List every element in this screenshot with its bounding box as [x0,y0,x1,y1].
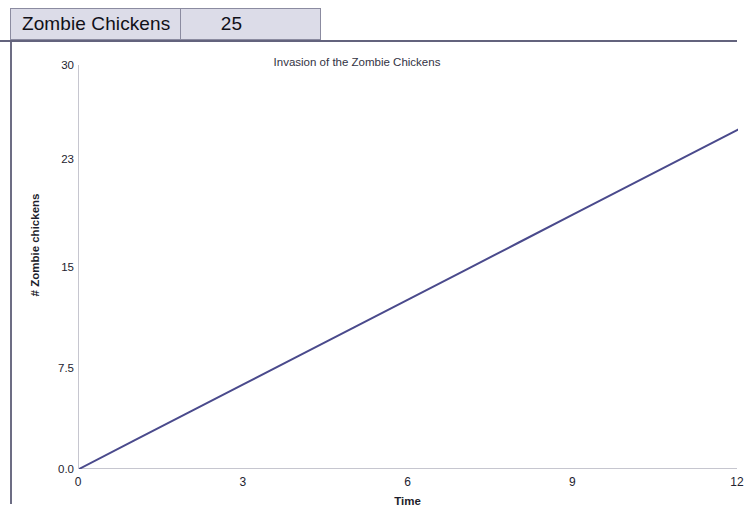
line-chart: Invasion of the Zombie Chickens # Zombie… [12,43,737,504]
plot-area [78,65,737,469]
header-cell-value[interactable]: 25 [181,9,320,39]
x-tick-label: 6 [404,475,411,489]
y-tick-label: 30 [14,59,74,71]
y-tick-label: 15 [14,261,74,273]
y-tick-label: 23 [14,153,74,165]
header-name-label: Zombie Chickens [22,13,170,35]
x-axis-ticks: 036912 [78,475,737,493]
y-axis-ticks: 0.07.5152330 [12,65,74,469]
header-value-label: 25 [221,13,242,35]
sheet-horizontal-rule [0,40,737,42]
data-series-line [79,130,738,469]
x-tick-label: 3 [239,475,246,489]
y-tick-label: 0.0 [14,463,74,475]
header-table: Zombie Chickens 25 [10,8,321,40]
x-axis-label: Time [78,495,737,507]
y-tick-label: 7.5 [14,362,74,374]
x-tick-label: 12 [730,475,743,489]
header-cell-name[interactable]: Zombie Chickens [11,9,181,39]
x-tick-label: 0 [75,475,82,489]
x-tick-label: 9 [569,475,576,489]
plot-svg [79,65,738,469]
